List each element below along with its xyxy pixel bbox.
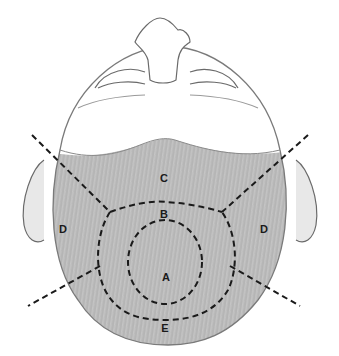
right-ear xyxy=(296,160,317,242)
head-drawing xyxy=(0,0,339,356)
zone-label-d-left: D xyxy=(59,224,67,235)
head-zones-diagram: C B D D A E xyxy=(0,0,339,356)
zone-label-b: B xyxy=(160,209,168,220)
zone-label-a: A xyxy=(162,272,170,283)
left-ear xyxy=(23,160,44,242)
zone-label-c: C xyxy=(160,173,168,184)
zone-label-d-right: D xyxy=(260,224,268,235)
zone-label-e: E xyxy=(161,323,168,334)
